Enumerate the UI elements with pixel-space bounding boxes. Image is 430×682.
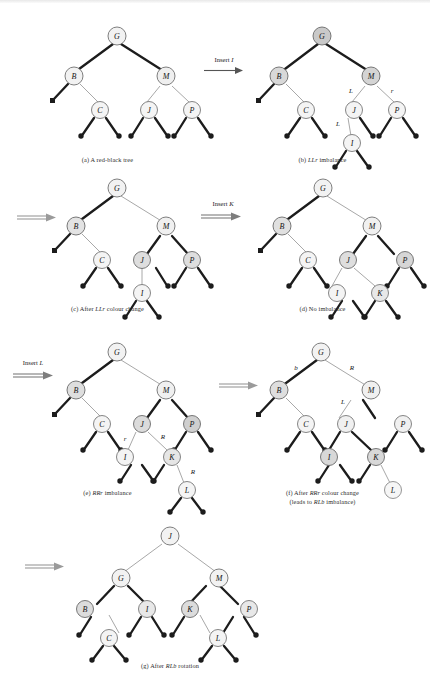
- panel-e-tree: G B M C J P I K L r R R: [0, 334, 215, 494]
- node-label-C: C: [97, 106, 103, 115]
- node-label-P: P: [402, 256, 408, 265]
- node-label-J: J: [346, 256, 350, 265]
- caption-c-prefix: (c) After: [71, 305, 95, 312]
- node-label-B: B: [83, 605, 88, 614]
- caption-b-prefix: (b): [299, 156, 308, 163]
- node-label-K: K: [372, 453, 379, 462]
- node-label-J: J: [168, 532, 172, 541]
- edge-label-L: L: [340, 398, 345, 406]
- node-label-G: G: [320, 184, 326, 193]
- node-label-B: B: [74, 386, 79, 395]
- node-label-M: M: [215, 574, 224, 583]
- edges-red: [80, 84, 189, 102]
- caption-a-text: (a) A red-black tree: [82, 156, 133, 163]
- panel-c: G B M C J P I: [0, 172, 215, 322]
- node-label-K: K: [376, 289, 383, 298]
- node-labels: G B M C J P: [72, 32, 195, 115]
- node-label-C: C: [303, 420, 309, 429]
- panel-g-tree: J G M B I K P C L: [40, 516, 300, 656]
- caption-b-key: LLr: [308, 156, 318, 163]
- panel-a-tree: G B M C J P: [0, 8, 215, 158]
- node-label-I: I: [350, 139, 354, 148]
- caption-e: (e) RRr imbalance: [0, 489, 215, 497]
- panel-e: G B M C J P I K L r R R: [0, 334, 215, 494]
- node-label-I: I: [335, 289, 339, 298]
- node-label-P: P: [189, 256, 195, 265]
- node-label-J: J: [140, 420, 144, 429]
- caption-g-suffix: rotation: [177, 662, 199, 669]
- node-label-J: J: [140, 256, 144, 265]
- node-label-M: M: [368, 222, 377, 231]
- edges-red: [109, 544, 216, 633]
- node-label-I: I: [145, 605, 149, 614]
- node-label-I: I: [123, 453, 127, 462]
- caption-f-prefix: (f) After: [286, 489, 310, 496]
- panel-f-tree: G B M C J P I K L b R L: [215, 334, 430, 494]
- node-label-J: J: [352, 106, 356, 115]
- node-label-P: P: [400, 420, 406, 429]
- caption-d: (d) No imbalance: [215, 305, 430, 313]
- caption-g-key: RLb: [166, 662, 177, 669]
- red-black-tree-figure: G B M C J P (a) A red-black tree Insert …: [0, 0, 430, 682]
- caption-f-suffix: colour change: [320, 489, 359, 496]
- page-top-rule: [0, 0, 430, 3]
- node-label-M: M: [162, 222, 171, 231]
- node-label-P: P: [189, 106, 195, 115]
- caption-c-suffix: colour change: [105, 305, 144, 312]
- caption-b: (b) LLr imbalance: [215, 156, 430, 164]
- caption-f-line2: (leads to RLb imbalance): [215, 498, 430, 507]
- internal-nodes: [270, 343, 412, 499]
- internal-nodes: [65, 27, 201, 119]
- node-label-C: C: [99, 256, 105, 265]
- panel-f: G B M C J P I K L b R L: [215, 334, 430, 494]
- node-label-C: C: [305, 256, 311, 265]
- node-labels: G B M C J P I K: [280, 184, 408, 298]
- node-label-M: M: [367, 72, 376, 81]
- node-label-J: J: [344, 420, 348, 429]
- node-label-G: G: [114, 184, 120, 193]
- caption-g-prefix: (g) After: [141, 662, 166, 669]
- node-label-C: C: [303, 106, 309, 115]
- caption-a: (a) A red-black tree: [0, 156, 215, 164]
- node-label-B: B: [280, 222, 285, 231]
- caption-f-line2-suffix: imbalance): [325, 498, 356, 505]
- caption-f: (f) After RRr colour change (leads to RL…: [215, 489, 430, 506]
- caption-c-key: LLr: [95, 305, 105, 312]
- node-label-G: G: [114, 348, 120, 357]
- node-label-P: P: [394, 106, 400, 115]
- node-label-G: G: [319, 32, 325, 41]
- node-label-B: B: [277, 72, 282, 81]
- node-label-P: P: [246, 605, 252, 614]
- edge-label-r: r: [391, 87, 394, 95]
- node-label-K: K: [186, 605, 193, 614]
- node-label-G: G: [114, 32, 120, 41]
- panel-d-tree: G B M C J P I K: [215, 172, 430, 322]
- caption-c: (c) After LLr colour change: [0, 305, 215, 313]
- edges-black: [53, 44, 209, 134]
- node-label-G: G: [318, 348, 324, 357]
- node-label-G: G: [118, 574, 124, 583]
- node-label-B: B: [277, 386, 282, 395]
- caption-f-line2-prefix: (leads to: [289, 498, 313, 505]
- caption-e-suffix: imbalance: [103, 489, 132, 496]
- panel-b-tree: G B M C J P I L r L: [215, 8, 430, 158]
- panel-c-tree: G B M C J P I: [0, 172, 215, 322]
- node-label-L: L: [215, 634, 221, 643]
- caption-d-text: (d) No imbalance: [299, 305, 345, 312]
- edge-label-R-upper: R: [160, 433, 166, 441]
- panel-a: G B M C J P: [0, 8, 215, 158]
- node-label-M: M: [162, 386, 171, 395]
- caption-b-suffix: imbalance: [318, 156, 347, 163]
- edge-label-R-lower: R: [190, 468, 196, 476]
- panel-b: G B M C J P I L r L: [215, 8, 430, 158]
- node-label-J: J: [147, 106, 151, 115]
- node-label-M: M: [367, 386, 376, 395]
- node-label-P: P: [189, 420, 195, 429]
- node-label-B: B: [72, 72, 77, 81]
- edge-label-R: R: [349, 364, 355, 372]
- edge-label-L-lower: L: [335, 120, 340, 128]
- caption-f-line1: (f) After RRr colour change: [215, 489, 430, 498]
- node-label-C: C: [106, 634, 112, 643]
- edge-label-r: r: [124, 435, 127, 443]
- node-label-B: B: [74, 222, 79, 231]
